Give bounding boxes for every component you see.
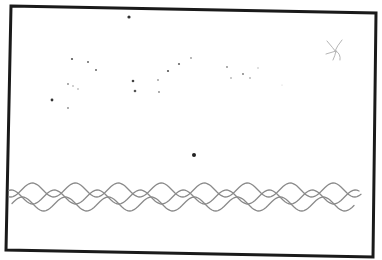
star-dot [95, 69, 97, 71]
sketch-canvas [0, 0, 382, 260]
star-dot [134, 90, 137, 93]
star-dot [77, 88, 79, 90]
star-dot [127, 15, 130, 18]
star-dot [167, 70, 169, 72]
star-dot [230, 77, 232, 79]
star-dot [249, 77, 251, 79]
star-dot [157, 79, 159, 81]
star-dot [87, 61, 89, 63]
star-dot [190, 57, 192, 59]
star-dot [71, 58, 73, 60]
paper-background [0, 0, 382, 260]
star-dot [242, 73, 244, 75]
star-dot [226, 66, 228, 68]
star-dot [257, 67, 258, 68]
star-dot [158, 91, 160, 93]
star-dot [67, 107, 69, 109]
star-dot [281, 84, 282, 85]
star-dot [178, 63, 180, 65]
star-dot [192, 153, 196, 157]
star-dot [72, 85, 74, 87]
star-dot [67, 83, 69, 85]
star-dot [132, 80, 135, 83]
star-dot [51, 99, 54, 102]
